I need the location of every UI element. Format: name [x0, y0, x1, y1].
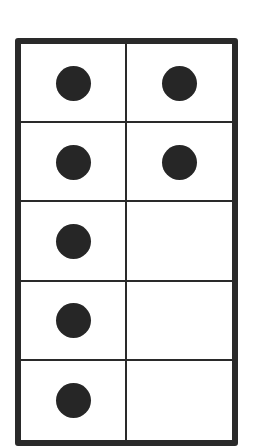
- counter-dot-icon: [56, 383, 91, 418]
- counter-dot-icon: [56, 66, 91, 101]
- frame-cell-r3-c2: [127, 202, 233, 281]
- counter-dot-icon: [56, 224, 91, 259]
- frame-cell-r1-c1: [21, 44, 127, 123]
- frame-cell-r5-c2: [127, 361, 233, 440]
- ten-frame: [15, 38, 238, 446]
- counter-dot-icon: [162, 145, 197, 180]
- frame-cell-r4-c1: [21, 282, 127, 361]
- frame-cell-r5-c1: [21, 361, 127, 440]
- frame-cell-r2-c1: [21, 123, 127, 202]
- counter-dot-icon: [56, 303, 91, 338]
- frame-cell-r3-c1: [21, 202, 127, 281]
- counter-dot-icon: [162, 66, 197, 101]
- frame-cell-r2-c2: [127, 123, 233, 202]
- frame-cell-r4-c2: [127, 282, 233, 361]
- counter-dot-icon: [56, 145, 91, 180]
- frame-cell-r1-c2: [127, 44, 233, 123]
